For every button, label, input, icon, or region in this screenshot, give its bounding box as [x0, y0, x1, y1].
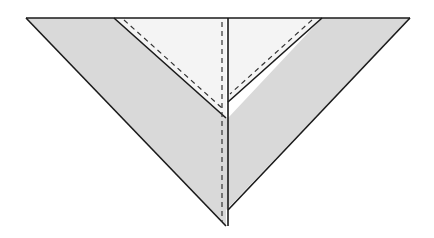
origami-diagram: [0, 0, 434, 238]
origami-svg: [0, 0, 434, 238]
